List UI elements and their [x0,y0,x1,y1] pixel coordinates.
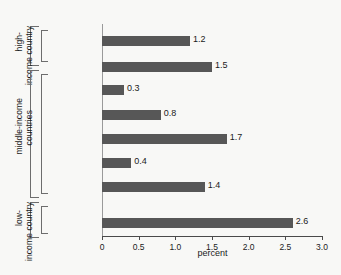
bar-value-label: 1.5 [215,60,228,70]
x-tick [285,236,286,240]
bar [102,85,124,95]
x-tick [175,236,176,240]
group-bracket-inner [41,206,48,234]
group-bracket-inner [41,74,48,194]
bar-value-label: 2.6 [296,216,309,226]
group-label-middle-income-line1: middle-income [15,98,24,155]
group-label-low-income-line2: income country [25,202,34,261]
bar-row: Indonesia 1.7 [102,128,322,150]
x-tick [249,236,250,240]
plot-area: 0 0.5 1.0 1.5 2.0 2.5 3.0 Korea, Rep. 1.… [102,24,322,236]
x-tick [212,236,213,240]
bar-row: Philippines 0.4 [102,152,322,174]
bar [102,182,205,192]
bar-row: China 0.8 [102,104,322,126]
bar-value-label: 0.8 [164,108,177,118]
bar-value-label: 1.7 [230,132,243,142]
x-tick [322,236,323,240]
x-tick [102,236,103,240]
group-label-middle-income-line2: countries [25,110,34,145]
group-label-low-income-line1: low- [15,210,24,226]
bar [102,62,212,72]
bar [102,218,293,228]
bar [102,36,190,46]
bar-row: Malaysia 1.5 [102,56,322,78]
bar-value-label: 0.3 [127,83,140,93]
bar-row: Korea, Rep. 1.2 [102,30,322,52]
bar [102,158,131,168]
bar-row: Mongolia 1.4 [102,176,322,198]
bar-value-label: 0.4 [134,156,147,166]
x-tick [139,236,140,240]
group-label-high-income-line1: high- [15,32,24,51]
bar-chart: high- income country middle-income count… [0,0,341,275]
bar-value-label: 1.4 [208,180,221,190]
group-bracket-inner [41,30,48,62]
bar-row: Thailand 0.3 [102,79,322,101]
bar [102,134,227,144]
bar [102,110,161,120]
bar-row: Vietnam 2.6 [102,212,322,234]
x-axis-title: percent [102,248,323,258]
bar-value-label: 1.2 [193,34,206,44]
